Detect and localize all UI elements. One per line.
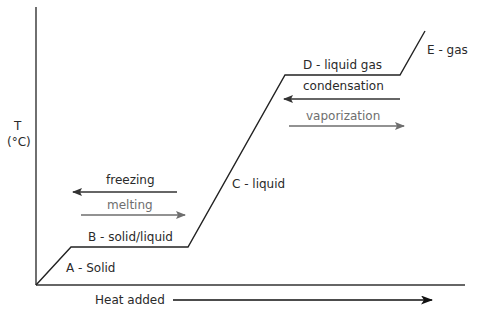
x-axis-label: Heat added <box>95 294 165 306</box>
melting-label: melting <box>107 199 153 211</box>
segment-d-label: D - liquid gas <box>303 59 382 71</box>
vaporization-label: vaporization <box>306 110 380 122</box>
segment-c-label: C - liquid <box>232 178 285 190</box>
y-axis-label-t: T <box>14 120 21 132</box>
freezing-label: freezing <box>106 174 155 186</box>
segment-e-label: E - gas <box>427 44 468 56</box>
y-axis-label-unit: (°C) <box>7 136 31 148</box>
condensation-label: condensation <box>303 80 384 92</box>
segment-b-label: B - solid/liquid <box>88 231 173 243</box>
segment-a-label: A - Solid <box>66 262 115 274</box>
